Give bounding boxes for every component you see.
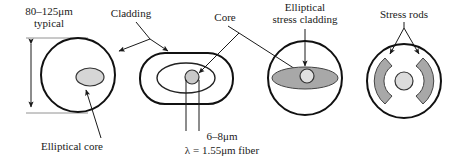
core-label: Core bbox=[214, 11, 236, 23]
wavelength-label: λ = 1.55μm fiber bbox=[185, 144, 260, 156]
elliptical-core-shape-1 bbox=[76, 68, 104, 86]
core-shape-3 bbox=[300, 69, 314, 83]
stress-rods-label: Stress rods bbox=[380, 8, 428, 20]
stress-rod-right bbox=[416, 58, 434, 104]
core-diameter-leaders bbox=[186, 80, 199, 131]
elliptical-core-label: Elliptical core bbox=[41, 140, 103, 152]
core-leader-joint bbox=[228, 26, 239, 33]
core-shape-4 bbox=[395, 72, 413, 90]
fiber-cross-section-4 bbox=[367, 44, 441, 118]
figure-canvas: 80–125μm typical Cladding Core Elliptica… bbox=[0, 0, 456, 163]
fiber-cross-section-figure: 80–125μm typical Cladding Core Elliptica… bbox=[0, 0, 456, 163]
stress-rods-leader-right bbox=[404, 28, 419, 54]
diameter-label-line2: typical bbox=[34, 17, 64, 29]
cladding-leaders bbox=[119, 22, 168, 51]
stress-rod-left bbox=[374, 58, 392, 104]
diameter-label-line1: 80–125μm bbox=[25, 5, 73, 17]
stress-rods-leaders bbox=[390, 22, 419, 54]
core-diameter-label: 6–8μm bbox=[207, 130, 238, 142]
elliptical-stress-cladding-label-line1: Elliptical bbox=[285, 1, 325, 13]
cladding-label: Cladding bbox=[111, 7, 152, 19]
cladding-leader-right bbox=[150, 39, 168, 51]
elliptical-stress-cladding-label-line2: stress cladding bbox=[272, 13, 338, 25]
cladding-leader-joint bbox=[136, 22, 150, 39]
fiber-cross-section-1 bbox=[41, 38, 115, 112]
core-shape-2 bbox=[185, 70, 199, 84]
core-leaders bbox=[199, 26, 303, 74]
elliptical-core-leader bbox=[86, 90, 101, 138]
cladding-leader-left bbox=[119, 39, 150, 51]
stress-rods-leader-left bbox=[390, 28, 404, 54]
